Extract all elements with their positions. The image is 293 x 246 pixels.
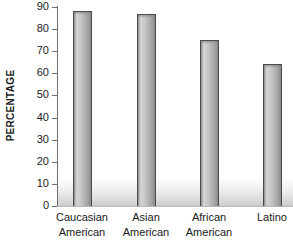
y-tick: 60	[0, 73, 57, 74]
y-tick-mark	[52, 162, 57, 163]
y-tick: 50	[0, 95, 57, 96]
x-label-line-2: American	[161, 225, 257, 240]
y-axis-title: PERCENTAGE	[0, 0, 22, 210]
ground-shadow	[58, 178, 293, 207]
y-tick-label: 70	[37, 44, 49, 57]
y-tick: 70	[0, 51, 57, 52]
y-tick-label: 20	[37, 155, 49, 168]
bar-caucasian-american[interactable]	[73, 11, 92, 206]
y-axis-title-text: PERCENTAGE	[6, 69, 17, 141]
y-tick-label: 60	[37, 66, 49, 79]
y-tick-label: 90	[37, 0, 49, 13]
y-tick-label: 10	[37, 177, 49, 190]
x-axis-baseline	[57, 206, 293, 207]
y-tick-label: 40	[37, 111, 49, 124]
y-tick-mark	[52, 184, 57, 185]
y-tick-mark	[52, 7, 57, 8]
x-label-line-1: African	[192, 211, 226, 223]
y-tick: 90	[0, 7, 57, 8]
y-tick: 10	[0, 184, 57, 185]
bar-african-american[interactable]	[200, 40, 219, 206]
bar-asian-american[interactable]	[137, 14, 156, 206]
bar-chart: PERCENTAGE 90 80 70 60 50 40 30	[0, 0, 293, 246]
y-tick: 20	[0, 162, 57, 163]
y-tick-mark	[52, 95, 57, 96]
y-tick-label: 80	[37, 22, 49, 35]
y-tick-mark	[52, 73, 57, 74]
x-label-latino: Latino	[224, 210, 293, 225]
y-tick-label: 30	[37, 133, 49, 146]
y-tick: 80	[0, 29, 57, 30]
y-tick-mark	[52, 118, 57, 119]
y-tick-label: 50	[37, 88, 49, 101]
y-axis-line	[57, 6, 58, 207]
y-tick: 0	[0, 206, 57, 207]
x-label-line-1: Latino	[257, 211, 287, 223]
y-tick-mark	[52, 51, 57, 52]
x-label-line-1: Asian	[132, 211, 160, 223]
y-tick-mark	[52, 29, 57, 30]
y-tick: 40	[0, 118, 57, 119]
y-tick: 30	[0, 140, 57, 141]
y-tick-mark	[52, 140, 57, 141]
bar-latino[interactable]	[263, 64, 282, 206]
